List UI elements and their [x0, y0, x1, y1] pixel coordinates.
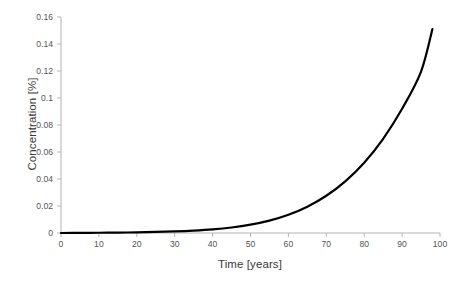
x-axis-tick-label: 60 [284, 239, 294, 249]
x-axis-tick-label: 70 [322, 239, 332, 249]
y-axis-tick-label: 0.06 [36, 147, 53, 157]
x-axis-tick-label: 20 [132, 239, 142, 249]
x-axis: 0102030405060708090100 [59, 233, 448, 249]
x-axis-tick-label: 40 [208, 239, 218, 249]
chart-plot-area: 00.020.040.060.080.10.120.140.16 0102030… [0, 0, 456, 281]
data-series-group [61, 29, 432, 233]
x-axis-title: Time [years] [150, 258, 350, 270]
x-axis-tick-label: 30 [170, 239, 180, 249]
y-axis-tick-label: 0.12 [36, 66, 53, 76]
x-axis-tick-label: 80 [359, 239, 369, 249]
y-axis-title: Concentration [%] [26, 44, 38, 204]
y-axis-tick-label: 0.02 [36, 201, 53, 211]
x-axis-tick-label: 50 [246, 239, 256, 249]
y-axis-tick-label: 0.1 [41, 93, 53, 103]
x-axis-tick-label: 10 [94, 239, 104, 249]
x-axis-tick-label: 90 [397, 239, 407, 249]
data-line-concentration [61, 29, 432, 233]
y-axis-tick-label: 0.08 [36, 120, 53, 130]
y-axis-tick-label: 0.14 [36, 39, 53, 49]
y-axis-tick-label: 0.04 [36, 174, 53, 184]
y-axis-tick-label: 0.16 [36, 12, 53, 22]
y-axis: 00.020.040.060.080.10.120.140.16 [36, 12, 61, 238]
y-axis-tick-label: 0 [48, 228, 53, 238]
chart-container: 00.020.040.060.080.10.120.140.16 0102030… [0, 0, 456, 281]
x-axis-tick-label: 0 [59, 239, 64, 249]
x-axis-tick-label: 100 [433, 239, 448, 249]
